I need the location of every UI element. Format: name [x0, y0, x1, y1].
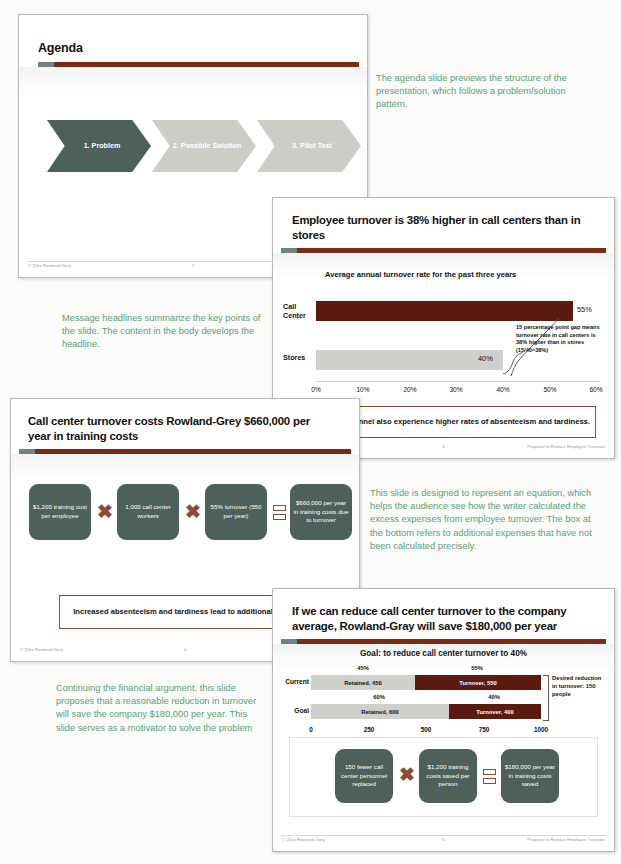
slide1-title: Agenda — [38, 41, 83, 55]
segment-current-retained: Retained, 450 — [311, 675, 415, 690]
equals-icon — [483, 769, 496, 787]
row-label-goal: Goal — [275, 707, 309, 714]
header-fade — [11, 454, 359, 480]
annotation-headline: Message headlines summarize the key poin… — [62, 312, 268, 352]
equation-box-4: $660,000 per year in training costs due … — [290, 484, 352, 540]
bracket-label: Desired reduction in turnover: 150 peopl… — [552, 674, 604, 698]
xtick-6: 60% — [589, 386, 602, 393]
footer-copyright: © 20xx Rowland-Grey — [20, 647, 63, 652]
annotation-savings: Continuing the financial argument, this … — [56, 682, 256, 735]
footer-copyright: © 20xx Rowland-Grey — [282, 837, 325, 842]
slide-savings-goal[interactable]: If we can reduce call center turnover to… — [272, 588, 615, 852]
chevron-step-1[interactable]: 1. Problem — [47, 120, 151, 172]
x-axis: 0% 10% 20% 30% 40% 50% 60% — [313, 381, 604, 399]
segment-goal-turnover: Turnover, 400 — [449, 704, 541, 719]
xtick-0: 0 — [309, 726, 313, 733]
bar-value-stores: 40% — [478, 354, 493, 363]
page-canvas: The agenda slide previews the structure … — [0, 0, 621, 864]
footer-page-number: 2 — [192, 263, 194, 268]
footer-copyright: © 20xx Rowland-Grey — [28, 263, 71, 268]
xtick-0: 0% — [311, 386, 321, 393]
segment-goal-retained: Retained, 600 — [311, 704, 449, 719]
footer-deck-title: Proposal to Reduce Employee Turnover — [527, 837, 605, 842]
slide4-footer: © 20xx Rowland-Grey 5 Proposal to Reduce… — [273, 837, 614, 847]
callout-gap-explanation: 15 percentage point gap means turnover r… — [516, 324, 606, 354]
pct-current-turnover: 55% — [471, 665, 483, 671]
slide2-title: Employee turnover is 38% higher in call … — [292, 213, 592, 242]
footer-page-number: 3 — [442, 444, 444, 449]
multiply-icon-2: ✖ — [185, 504, 201, 520]
equation-box-3: 55% turnover (550 per year) — [205, 484, 267, 540]
equals-icon — [273, 505, 286, 523]
footer-deck-title: Proposal to Reduce Employee Turnover — [527, 444, 605, 449]
chart-subtitle: Average annual turnover rate for the pas… — [325, 270, 516, 279]
xtick-500: 500 — [421, 726, 432, 733]
bar-label-stores: Stores — [283, 353, 315, 362]
annotation-agenda: The agenda slide previews the structure … — [376, 72, 576, 112]
xtick-1000: 1000 — [534, 726, 548, 733]
header-fade — [19, 67, 367, 93]
slide3-title: Call center turnover costs Rowland-Grey … — [28, 414, 333, 443]
xtick-250: 250 — [364, 726, 375, 733]
footer-page-number: 4 — [184, 647, 186, 652]
equation-box-2: 1,000 call center workers — [117, 484, 179, 540]
chevron-step-2[interactable]: 2. Possible Solution — [152, 120, 256, 172]
pct-current-retained: 45% — [357, 665, 369, 671]
equation-box-2: $1,200 training costs saved per person — [419, 749, 477, 803]
equation-box-1: 150 fewer call center personnel replaced — [335, 749, 393, 803]
pct-goal-turnover: 40% — [488, 694, 500, 700]
goal-statement: Goal: to reduce call center turnover to … — [273, 649, 614, 658]
bar-label-call-center: CallCenter — [283, 302, 315, 320]
equation-box-3: $180,000 per year in training costs save… — [501, 749, 559, 803]
bracket-desired-reduction — [543, 675, 549, 721]
xtick-750: 750 — [479, 726, 490, 733]
bar-stores — [316, 350, 503, 370]
equation-box-1: $1,200 training cost per employee — [29, 484, 91, 540]
bar-value-call-center: 55% — [577, 305, 592, 314]
slide4-title: If we can reduce call center turnover to… — [292, 604, 597, 633]
multiply-icon-1: ✖ — [399, 767, 415, 783]
annotation-equation: This slide is designed to represent an e… — [370, 487, 592, 553]
multiply-icon-1: ✖ — [97, 504, 113, 520]
pct-goal-retained: 60% — [373, 694, 385, 700]
segment-current-turnover: Turnover, 550 — [415, 675, 541, 690]
chevron-step-3[interactable]: 3. Pilot Test — [257, 120, 361, 172]
xtick-5: 50% — [543, 386, 556, 393]
footer-page-number: 5 — [442, 837, 444, 842]
xtick-3: 30% — [449, 386, 462, 393]
footer-rule — [281, 835, 606, 836]
xtick-4: 40% — [496, 386, 509, 393]
xtick-2: 20% — [403, 386, 416, 393]
row-label-current: Current — [275, 678, 309, 685]
xtick-1: 10% — [356, 386, 369, 393]
